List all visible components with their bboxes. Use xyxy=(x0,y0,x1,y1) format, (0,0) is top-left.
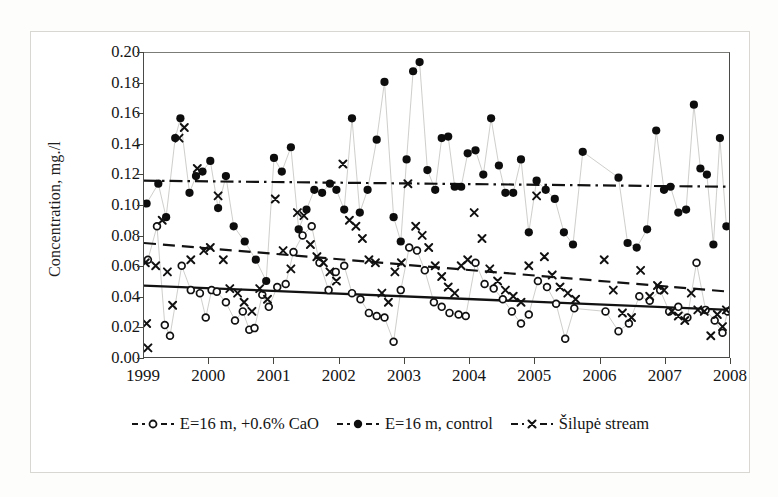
data-point-control xyxy=(416,58,424,66)
data-point-cao xyxy=(265,303,272,310)
data-point-control xyxy=(287,143,295,151)
y-tick-label: 0.06 xyxy=(56,258,140,275)
data-point-cao xyxy=(446,310,453,317)
data-point-control xyxy=(479,171,487,179)
legend-item[interactable]: E=16 m, +0.6% CaO xyxy=(131,414,319,434)
data-point-stream xyxy=(502,287,509,294)
data-point-control xyxy=(185,189,193,197)
data-point-control xyxy=(517,155,525,163)
y-tick-label: 0.08 xyxy=(56,228,140,245)
data-point-control xyxy=(579,148,587,156)
data-point-cao xyxy=(239,308,246,315)
data-point-control xyxy=(471,146,479,154)
data-point-control xyxy=(348,114,356,122)
x-tick-label: 2000 xyxy=(172,366,244,386)
data-point-control xyxy=(364,186,372,194)
x-tick-mark xyxy=(273,358,274,364)
x-tick-mark xyxy=(404,358,405,364)
y-tick-mark xyxy=(137,327,144,328)
data-point-control xyxy=(464,149,472,157)
data-point-cao xyxy=(167,332,174,339)
data-point-control xyxy=(682,205,690,213)
x-tick-label: 2004 xyxy=(433,366,505,386)
data-point-control xyxy=(722,222,729,230)
data-point-control xyxy=(390,213,398,221)
data-point-stream xyxy=(707,332,714,339)
data-point-control xyxy=(703,171,711,179)
data-point-stream xyxy=(601,256,608,263)
data-point-cao xyxy=(414,247,421,254)
y-tick-mark xyxy=(137,144,144,145)
data-point-control xyxy=(614,174,622,182)
data-point-cao xyxy=(308,223,315,230)
data-point-stream xyxy=(220,256,227,263)
legend-item[interactable]: Šilupė stream xyxy=(510,414,649,434)
data-point-stream xyxy=(391,268,398,275)
data-point-control xyxy=(326,180,334,188)
data-point-cao xyxy=(397,287,404,294)
data-point-stream xyxy=(419,232,426,239)
data-point-control xyxy=(652,126,660,134)
data-point-cao xyxy=(462,313,469,320)
data-point-stream xyxy=(333,278,340,285)
data-point-cao xyxy=(602,308,609,315)
data-point-control xyxy=(533,177,541,185)
y-tick-label: 0.04 xyxy=(56,289,140,306)
data-point-stream xyxy=(572,296,579,303)
data-point-control xyxy=(696,164,704,172)
data-point-cao xyxy=(290,249,297,256)
data-point-stream xyxy=(248,308,255,315)
data-point-cao xyxy=(232,317,239,324)
data-point-stream xyxy=(359,235,366,242)
data-point-cao xyxy=(197,290,204,297)
data-point-stream xyxy=(637,267,644,274)
data-point-cao xyxy=(381,314,388,321)
data-point-stream xyxy=(385,299,392,306)
data-point-stream xyxy=(471,209,478,216)
data-point-control xyxy=(716,134,724,142)
data-point-stream xyxy=(714,311,721,318)
data-point-control xyxy=(457,183,465,191)
data-point-control xyxy=(356,209,364,217)
x-tick-label: 1999 xyxy=(107,366,179,386)
y-tick-mark xyxy=(137,266,144,267)
plot-area xyxy=(143,52,730,358)
x-tick-label: 2006 xyxy=(564,366,636,386)
data-point-cao xyxy=(438,303,445,310)
data-point-cao xyxy=(490,285,497,292)
data-point-cao xyxy=(636,293,643,300)
y-tick-label: 0.12 xyxy=(56,166,140,183)
data-point-control xyxy=(230,222,238,230)
y-tick-mark xyxy=(137,236,144,237)
data-point-control xyxy=(241,237,249,245)
data-point-control xyxy=(332,186,340,194)
data-point-cao xyxy=(187,287,194,294)
data-point-stream xyxy=(339,160,346,167)
data-point-cao xyxy=(421,267,428,274)
data-point-cao xyxy=(535,278,542,285)
data-point-cao xyxy=(553,300,560,307)
data-point-control xyxy=(666,183,674,191)
data-point-control xyxy=(569,240,577,248)
data-point-stream xyxy=(438,273,445,280)
data-point-control xyxy=(560,228,568,236)
y-tick-label: 0.20 xyxy=(56,44,140,61)
y-tick-label: 0.10 xyxy=(56,197,140,214)
data-point-stream xyxy=(425,244,432,251)
y-tick-label: 0.16 xyxy=(56,105,140,122)
y-tick-mark xyxy=(137,358,144,359)
data-point-cao xyxy=(675,303,682,310)
x-tick-label: 2007 xyxy=(629,366,701,386)
data-point-cao xyxy=(274,284,281,291)
legend-item[interactable]: E=16 m, control xyxy=(336,414,493,434)
y-tick-label: 0.02 xyxy=(56,319,140,336)
data-point-stream xyxy=(494,278,501,285)
data-point-cao xyxy=(431,299,438,306)
data-point-control xyxy=(144,199,151,207)
x-tick-label: 2005 xyxy=(498,366,570,386)
data-point-control xyxy=(318,189,326,197)
data-point-control xyxy=(295,225,303,233)
data-point-control xyxy=(310,186,318,194)
x-tick-label: 2002 xyxy=(303,366,375,386)
data-point-control xyxy=(444,133,452,141)
